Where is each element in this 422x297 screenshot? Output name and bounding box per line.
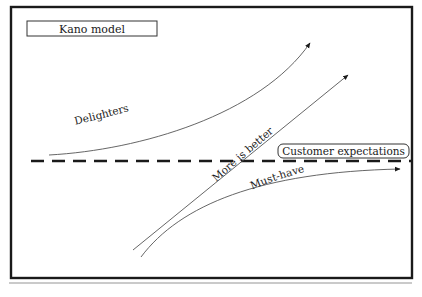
diagram-frame — [11, 7, 412, 278]
title-box: Kano model — [27, 21, 157, 36]
customer-expectations-box: Customer expectations — [278, 144, 409, 158]
diagram-title: Kano model — [59, 23, 126, 36]
kano-model-diagram: Kano model Customer expectations Delight… — [0, 0, 422, 297]
customer-expectations-label: Customer expectations — [282, 145, 405, 157]
